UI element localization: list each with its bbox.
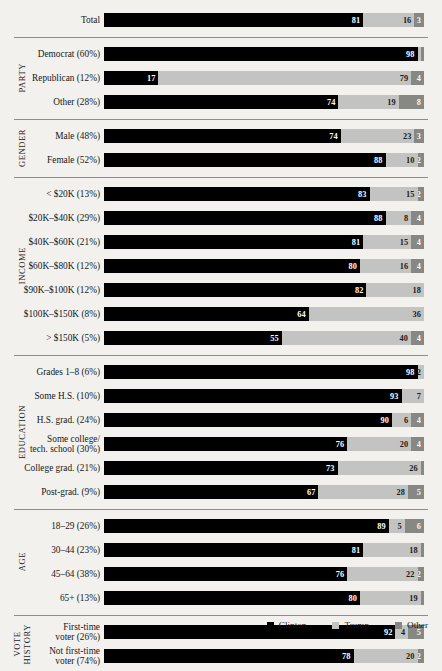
legend-label: Other [407,620,428,630]
bar-segment-value: 4 [417,238,424,247]
bar-segment-clinton: 89 [104,519,389,533]
bar-segment-value: 83 [358,190,370,199]
bar-segment-clinton: 64 [104,307,309,321]
chart-group-income: INCOME< $20K (13%)83152$20K–$40K (29%)88… [0,177,442,355]
bar-segment-clinton: 74 [104,95,338,109]
bar-segment-other: 8 [399,95,424,109]
bar-segment-other: 2 [418,649,424,663]
bar-segment-value: 3 [417,16,424,25]
bar-segment-value: 18 [409,546,421,555]
chart-row: 30–44 (23%)8118 [0,538,442,562]
chart-row: 18–29 (26%)8956 [0,514,442,538]
chart-row: Total81163 [0,8,442,32]
bar-segment-value: 20 [406,652,418,661]
bar-segment-other [421,591,424,605]
bar-segment-trump: 20 [347,437,411,451]
bar-segment-value: 88 [374,156,386,165]
bar-segment-value: 81 [352,238,364,247]
bar-segment-trump: 79 [158,71,411,85]
row-category-label: 45–64 (38%) [6,569,104,579]
row-category-label: Not first-time voter (74%) [6,646,104,667]
legend-label: Trump [344,620,369,630]
chart-row: Other (28%)74198 [0,90,442,114]
bar-segment-value: 26 [409,464,421,473]
bar-track: 78202 [104,649,424,663]
row-category-label: College grad. (21%) [6,463,104,473]
bar-track: 8218 [104,283,424,297]
bar-segment-clinton: 98 [104,47,418,61]
bar-segment-value: 79 [400,74,412,83]
bar-segment-value: 22 [406,570,418,579]
bar-segment-value: 90 [381,416,393,425]
bar-segment-value: 3 [417,132,424,141]
bar-track: 80164 [104,259,424,273]
bar-segment-clinton: 81 [104,235,363,249]
chart-row: Grades 1–8 (6%)982 [0,360,442,384]
bar-segment-value: 80 [349,262,361,271]
bar-segment-trump: 16 [360,259,411,273]
bar-segment-clinton: 90 [104,413,392,427]
chart-row: Female (52%)88102 [0,148,442,172]
bar-segment-value: 2 [418,570,424,579]
row-category-label: Other (28%) [6,97,104,107]
chart-row: 45–64 (38%)76222 [0,562,442,586]
bar-segment-value: 16 [400,262,412,271]
bar-segment-value: 19 [387,98,399,107]
chart-group-age: AGE18–29 (26%)895630–44 (23%)811845–64 (… [0,509,442,615]
bar-segment-value: 93 [390,392,402,401]
bar-segment-trump: 15 [363,235,411,249]
bar-segment-value: 74 [327,98,339,107]
bar-segment-value: 36 [412,310,424,319]
bar-segment-trump: 26 [338,461,421,475]
bar-segment-trump: 19 [360,591,421,605]
bar-segment-value: 73 [326,464,338,473]
chart-row: > $150K (5%)55404 [0,326,442,350]
bar-track: 7326 [104,461,424,475]
chart-row: $20K–$40K (29%)8884 [0,206,442,230]
legend-swatch-trump [332,622,339,629]
group-divider-line [14,119,428,120]
bar-segment-value: 67 [307,488,319,497]
legend-label: Clinton [279,620,307,630]
chart-row: $40K–$60K (21%)81154 [0,230,442,254]
bar-segment-value: 76 [336,570,348,579]
bar-segment-value: 74 [329,132,341,141]
group-divider-line [14,509,428,510]
bar-segment-other: 3 [414,13,424,27]
bar-track: 8884 [104,211,424,225]
bar-segment-value: 89 [377,522,389,531]
bar-segment-trump: 6 [392,413,411,427]
bar-segment-value: 55 [270,334,282,343]
bar-segment-value: 10 [406,156,418,165]
bar-track: 55404 [104,331,424,345]
bar-segment-value: 20 [400,440,412,449]
bar-segment-value: 2 [418,368,424,377]
group-divider-line [14,37,428,38]
bar-segment-other: 2 [418,567,424,581]
legend-item-other: Other [395,620,428,630]
bar-segment-trump: 2 [418,365,424,379]
chart-row: 65+ (13%)8019 [0,586,442,610]
bar-segment-trump: 40 [282,331,411,345]
chart-groups: Total81163PARTYDemocrat (60%)981Republic… [0,0,442,671]
legend-swatch-clinton [267,622,274,629]
chart-legend: ClintonTrumpOther [0,620,442,630]
chart-row: Some college/ tech. school (30%)76204 [0,432,442,456]
legend-item-trump: Trump [332,620,369,630]
bar-segment-trump: 20 [354,649,418,663]
bar-segment-other: 4 [411,259,424,273]
bar-segment-value: 2 [418,652,424,661]
row-category-label: $100K–$150K (8%) [6,309,104,319]
bar-track: 8118 [104,543,424,557]
bar-track: 937 [104,389,424,403]
bar-track: 88102 [104,153,424,167]
bar-segment-value: 40 [400,334,412,343]
bar-track: 74198 [104,95,424,109]
legend-item-clinton: Clinton [267,620,307,630]
bar-segment-value: 6 [417,522,424,531]
bar-segment-value: 78 [342,652,354,661]
bar-segment-trump: 5 [389,519,405,533]
bar-track: 67285 [104,485,424,499]
bar-segment-value: 80 [349,594,361,603]
bar-segment-clinton: 93 [104,389,402,403]
